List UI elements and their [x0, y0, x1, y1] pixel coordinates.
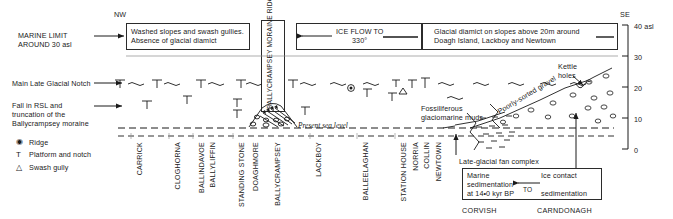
swash-gully-marker [399, 88, 407, 94]
annotation-arrows [94, 36, 124, 106]
elevation-axis [622, 25, 628, 149]
cross-section-graphics [0, 0, 673, 219]
gravel-clasts [500, 74, 615, 124]
gravel-wedge-surface [455, 68, 612, 128]
moraine-mound [249, 103, 297, 127]
glaciomarine-muds [443, 104, 515, 150]
ridge-symbol-marker [348, 85, 355, 92]
platform-notch-symbols [115, 78, 430, 118]
notch-tilde-marks [128, 83, 586, 100]
